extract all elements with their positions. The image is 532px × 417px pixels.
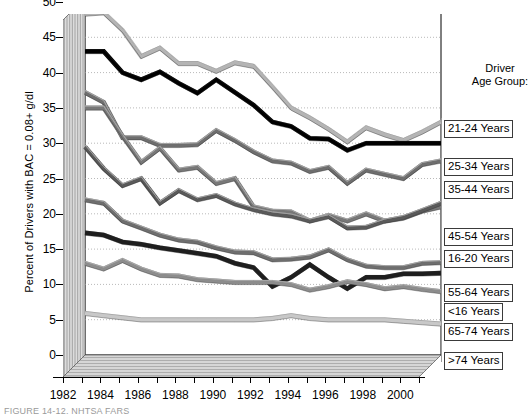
legend-item-label: 16-20 Years — [448, 252, 509, 264]
x-axis-line — [53, 377, 425, 378]
y-tick-label: 35 — [28, 103, 56, 113]
y-tick-label: 10 — [28, 279, 56, 289]
y-tick-label: 50 — [28, 0, 56, 7]
legend-item-label: 35-44 Years — [448, 183, 509, 195]
plot-svg — [63, 14, 445, 378]
y-tick-label: 40 — [28, 68, 56, 78]
legend-item-25-34-years[interactable]: 25-34 Years — [444, 158, 513, 176]
legend-item-label: 45-54 Years — [448, 230, 509, 242]
legend-item-35-44-years[interactable]: 35-44 Years — [444, 181, 513, 199]
legend-connector-spine — [441, 118, 442, 362]
legend-item-label: <16 Years — [448, 305, 499, 317]
y-tick-mark — [56, 284, 63, 285]
legend-item-label: >74 Years — [448, 354, 499, 366]
y-tick-label: 0 — [28, 350, 56, 360]
legend-item-16-years[interactable]: <16 Years — [444, 303, 503, 321]
y-tick-label: 25 — [28, 174, 56, 184]
y-tick-label: 15 — [28, 244, 56, 254]
y-tick-mark — [56, 37, 63, 38]
legend-item-55-64-years[interactable]: 55-64 Years — [444, 284, 513, 302]
legend-item-label: 25-34 Years — [448, 160, 509, 172]
legend-item-label: 65-74 Years — [448, 325, 509, 337]
y-tick-label: 45 — [28, 32, 56, 42]
legend-item-16-20-years[interactable]: 16-20 Years — [444, 250, 513, 268]
figure-caption: FIGURE 14-12. NHTSA FARS — [4, 406, 129, 416]
y-axis: 05101520253035404550 — [22, 0, 56, 417]
y-tick-mark — [56, 320, 63, 321]
y-tick-mark — [56, 179, 63, 180]
legend-title-line2: Age Group: — [455, 75, 532, 87]
x-tick-label: 2000 — [378, 388, 422, 402]
legend-item-45-54-years[interactable]: 45-54 Years — [444, 228, 513, 246]
legend-item-65-74-years[interactable]: 65-74 Years — [444, 323, 513, 341]
y-tick-mark — [56, 355, 63, 356]
legend-item-label: 55-64 Years — [448, 286, 509, 298]
y-tick-mark — [56, 73, 63, 74]
y-tick-label: 20 — [28, 209, 56, 219]
y-tick-mark — [56, 2, 63, 3]
legend-item-21-24-years[interactable]: 21-24 Years — [444, 120, 513, 138]
plot-area — [63, 14, 445, 378]
y-tick-mark — [56, 249, 63, 250]
legend-title-line1: Driver — [455, 62, 532, 74]
legend-item-label: 21-24 Years — [448, 122, 509, 134]
y-tick-mark — [56, 143, 63, 144]
y-tick-label: 5 — [28, 315, 56, 325]
y-tick-label: 30 — [28, 138, 56, 148]
y-tick-mark — [56, 214, 63, 215]
legend-item-74-years[interactable]: >74 Years — [444, 352, 503, 370]
y-tick-mark — [56, 108, 63, 109]
